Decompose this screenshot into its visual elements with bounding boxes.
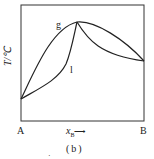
liquid-curve-left (21, 22, 77, 99)
liquid-curve-label: l (70, 65, 73, 75)
figure-caption: (b) (66, 144, 84, 154)
component-a-label: A (17, 126, 24, 136)
component-b-label: B (140, 126, 147, 136)
y-axis-label: T/℃ (3, 47, 13, 66)
liquid-curve-right (77, 22, 144, 61)
x-axis-label: xB⟶ (66, 126, 85, 138)
stray-mark: · (48, 152, 51, 159)
gas-curve-label: g (56, 20, 61, 30)
gas-curve (21, 22, 144, 99)
arrow-right-icon: ⟶ (74, 127, 85, 136)
